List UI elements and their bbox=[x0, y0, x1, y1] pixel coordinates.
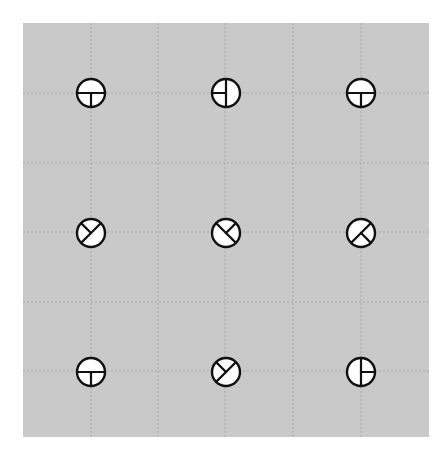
circle-symbol-icon bbox=[212, 358, 240, 386]
circle-symbol-icon bbox=[77, 79, 105, 107]
circle-symbol-icon bbox=[212, 219, 240, 247]
circle-symbol-icon bbox=[347, 79, 375, 107]
circle-symbol-icon bbox=[347, 219, 375, 247]
circle-symbol-icon bbox=[212, 79, 240, 107]
circle-symbol-icon bbox=[77, 219, 105, 247]
circle-symbol-icon bbox=[77, 358, 105, 386]
symbol-grid-canvas bbox=[0, 0, 447, 459]
circle-symbol-icon bbox=[347, 358, 375, 386]
